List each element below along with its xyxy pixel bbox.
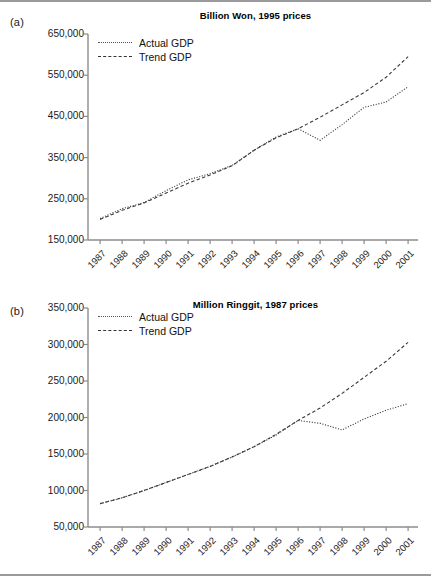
- legend-item-actual-gdp: Actual GDP: [98, 310, 194, 324]
- legend-label: Trend GDP: [139, 51, 192, 63]
- legend-a: Actual GDPTrend GDP: [98, 36, 194, 64]
- legend-item-actual-gdp: Actual GDP: [98, 36, 194, 50]
- chart-panel-a: (a) Billion Won, 1995 prices 150,000250,…: [0, 0, 431, 289]
- legend-label: Actual GDP: [139, 37, 194, 49]
- legend-swatch-dashed-icon: [98, 330, 132, 332]
- legend-b: Actual GDPTrend GDP: [98, 310, 194, 338]
- legend-item-trend-gdp: Trend GDP: [98, 50, 194, 64]
- legend-swatch-dotted-icon: [98, 316, 132, 318]
- x-axis-labels-a: 1987198819891990199119921993199419951996…: [0, 0, 431, 289]
- legend-swatch-dashed-icon: [98, 56, 132, 58]
- legend-label: Trend GDP: [139, 325, 192, 337]
- x-axis-labels-b: 1987198819891990199119921993199419951996…: [0, 289, 431, 578]
- bottom-rule: [0, 574, 431, 576]
- legend-swatch-dotted-icon: [98, 42, 132, 44]
- legend-item-trend-gdp: Trend GDP: [98, 324, 194, 338]
- legend-label: Actual GDP: [139, 311, 194, 323]
- chart-panel-b: (b) Million Ringgit, 1987 prices 50,0001…: [0, 289, 431, 578]
